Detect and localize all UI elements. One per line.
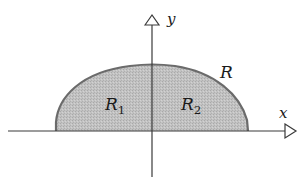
y-axis-label: y <box>167 12 175 27</box>
x-axis-label: x <box>279 106 287 121</box>
region-r-label: R <box>220 64 233 81</box>
coordinate-diagram <box>0 0 298 180</box>
subregion-r2-label: R2 <box>181 96 201 113</box>
y-axis-arrow-icon <box>145 15 159 25</box>
x-axis-arrow-icon <box>285 124 296 138</box>
subregion-r1-label: R1 <box>105 96 125 113</box>
